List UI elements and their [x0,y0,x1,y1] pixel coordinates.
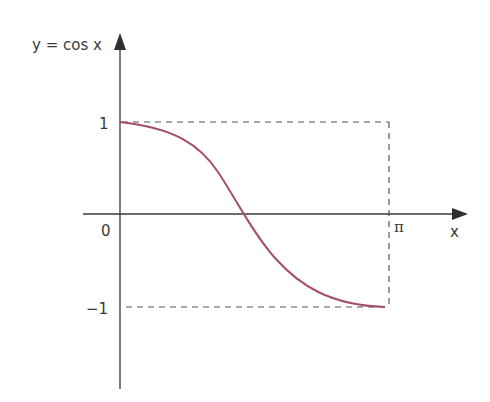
y-axis-arrow-icon [114,33,126,50]
tick-label-one: 1 [99,115,109,133]
y-axis [114,33,126,389]
origin-label: 0 [101,222,111,240]
x-axis [83,208,468,220]
tick-label-pi: π [394,218,404,236]
cosine-chart: y = cos x x 1 −1 0 π [0,0,490,402]
x-axis-label: x [450,223,459,241]
tick-label-minus-one: −1 [86,300,108,318]
y-axis-label: y = cos x [32,36,102,54]
x-axis-arrow-icon [452,208,468,220]
